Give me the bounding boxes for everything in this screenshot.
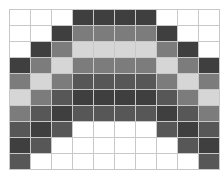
grid-cell	[10, 154, 31, 170]
grid-cell	[94, 10, 115, 26]
grid-cell	[73, 106, 94, 122]
grid-cell	[199, 154, 220, 170]
grid-cell	[94, 74, 115, 90]
grid-cell	[31, 138, 52, 154]
grid-cell	[136, 122, 157, 138]
grid-cell	[31, 90, 52, 106]
grid-cell	[94, 26, 115, 42]
grid-cell	[199, 58, 220, 74]
grid-cell	[52, 154, 73, 170]
grid-cell	[136, 154, 157, 170]
grid-cell	[136, 26, 157, 42]
grid-cell	[73, 42, 94, 58]
grid-cell	[178, 42, 199, 58]
grid-cell	[178, 10, 199, 26]
grid-cell	[94, 106, 115, 122]
grid-cell	[178, 154, 199, 170]
grid-cell	[115, 42, 136, 58]
grid-cell	[73, 138, 94, 154]
grid-cell	[157, 74, 178, 90]
grid-cell	[115, 10, 136, 26]
grid-cell	[178, 138, 199, 154]
grid-cell	[52, 90, 73, 106]
grid-cell	[178, 122, 199, 138]
grid-cell	[157, 138, 178, 154]
grid-cell	[157, 90, 178, 106]
grid-cell	[115, 74, 136, 90]
grid-cell	[199, 26, 220, 42]
grid-cell	[115, 138, 136, 154]
grid-cell	[115, 58, 136, 74]
grid-cell	[115, 90, 136, 106]
grid-cell	[136, 138, 157, 154]
grid-cell	[52, 10, 73, 26]
grid-cell	[94, 42, 115, 58]
grid-cell	[199, 106, 220, 122]
grid-cell	[136, 90, 157, 106]
grid-cell	[52, 138, 73, 154]
grid-cell	[178, 26, 199, 42]
grid-cell	[157, 58, 178, 74]
grid-cell	[31, 74, 52, 90]
grid-cell	[199, 42, 220, 58]
grid-cell	[136, 74, 157, 90]
grid-cell	[52, 122, 73, 138]
grid-cell	[136, 10, 157, 26]
grid-cell	[52, 26, 73, 42]
grid-cell	[199, 10, 220, 26]
grid-cell	[31, 154, 52, 170]
grid-cell	[157, 122, 178, 138]
grid-cell	[178, 74, 199, 90]
grid-cell	[31, 10, 52, 26]
grid-cell	[10, 42, 31, 58]
grid-cell	[178, 90, 199, 106]
grid-cell	[52, 58, 73, 74]
pixel-grid	[9, 9, 220, 170]
grid-cell	[178, 106, 199, 122]
grid-cell	[157, 106, 178, 122]
grid-cell	[10, 58, 31, 74]
grid-cell	[157, 154, 178, 170]
grid-cell	[136, 42, 157, 58]
grid-cell	[199, 90, 220, 106]
grid-cell	[199, 138, 220, 154]
grid-cell	[73, 58, 94, 74]
grid-cell	[10, 90, 31, 106]
grid-cell	[94, 122, 115, 138]
grid-cell	[178, 58, 199, 74]
grid-cell	[31, 42, 52, 58]
grid-cell	[94, 154, 115, 170]
grid-cell	[31, 58, 52, 74]
grid-cell	[52, 42, 73, 58]
grid-cell	[73, 154, 94, 170]
grid-cell	[10, 74, 31, 90]
grid-cell	[10, 138, 31, 154]
grid-cell	[73, 10, 94, 26]
grid-cell	[31, 106, 52, 122]
grid-cell	[115, 122, 136, 138]
grid-cell	[10, 10, 31, 26]
grid-cell	[73, 74, 94, 90]
grid-cell	[94, 58, 115, 74]
grid-cell	[73, 90, 94, 106]
grid-cell	[10, 122, 31, 138]
grid-cell	[199, 74, 220, 90]
grid-cell	[136, 106, 157, 122]
grid-cell	[199, 122, 220, 138]
grid-cell	[52, 74, 73, 90]
grid-cell	[157, 26, 178, 42]
grid-cell	[94, 138, 115, 154]
grid-cell	[157, 42, 178, 58]
grid-cell	[73, 122, 94, 138]
grid-cell	[136, 58, 157, 74]
grid-cell	[115, 26, 136, 42]
grid-cell	[31, 122, 52, 138]
grid-cell	[10, 106, 31, 122]
grid-cell	[73, 26, 94, 42]
grid-cell	[31, 26, 52, 42]
grid-cell	[94, 90, 115, 106]
grid-cell	[115, 106, 136, 122]
grid-cell	[10, 26, 31, 42]
grid-cell	[157, 10, 178, 26]
grid-cell	[115, 154, 136, 170]
